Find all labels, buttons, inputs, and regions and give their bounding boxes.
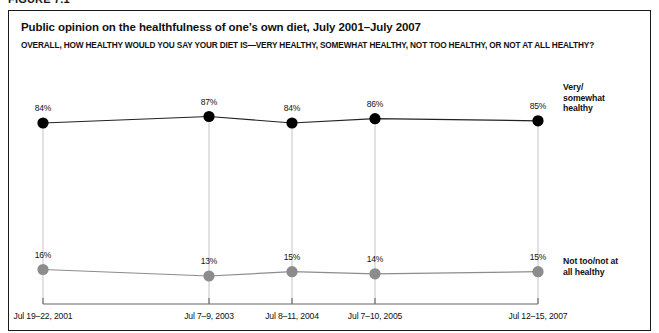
data-point-marker bbox=[37, 117, 48, 128]
x-axis-tick-label: Jul 8–11, 2004 bbox=[265, 311, 319, 321]
data-point-label: 86% bbox=[367, 99, 383, 109]
x-axis-tick-label: Jul 19–22, 2001 bbox=[14, 311, 73, 321]
x-axis-tick-label: Jul 7–10, 2005 bbox=[348, 311, 402, 321]
figure-panel: Public opinion on the healthfulness of o… bbox=[8, 10, 651, 331]
data-point-label: 16% bbox=[35, 250, 51, 260]
data-point-marker bbox=[369, 113, 380, 124]
data-point-marker bbox=[37, 264, 48, 275]
data-point-marker bbox=[369, 268, 380, 279]
figure-number: FIGURE 7.1 bbox=[8, 0, 70, 5]
plot-area: 84%87%84%86%85%16%13%15%14%15%Jul 19–22,… bbox=[9, 11, 652, 332]
data-point-label: 85% bbox=[530, 101, 546, 111]
data-point-label: 84% bbox=[35, 103, 51, 113]
data-point-marker bbox=[532, 115, 543, 126]
data-point-label: 87% bbox=[201, 97, 217, 107]
data-point-marker bbox=[286, 266, 297, 277]
data-point-marker bbox=[286, 117, 297, 128]
data-point-label: 15% bbox=[284, 252, 300, 262]
data-point-label: 84% bbox=[284, 103, 300, 113]
data-point-label: 14% bbox=[367, 254, 383, 264]
data-point-label: 15% bbox=[530, 252, 546, 262]
data-point-marker bbox=[203, 111, 214, 122]
x-axis-tick-label: Jul 7–9, 2003 bbox=[184, 311, 234, 321]
chart-canvas bbox=[9, 11, 652, 332]
series-label-very-somewhat-healthy: Very/somewhathealthy bbox=[563, 82, 605, 114]
x-axis-tick-label: Jul 12–15, 2007 bbox=[509, 311, 568, 321]
data-point-marker bbox=[532, 266, 543, 277]
data-point-label: 13% bbox=[201, 256, 217, 266]
data-point-marker bbox=[203, 270, 214, 281]
series-label-not-too-not-at-all-healthy: Not too/not atall healthy bbox=[563, 256, 618, 277]
